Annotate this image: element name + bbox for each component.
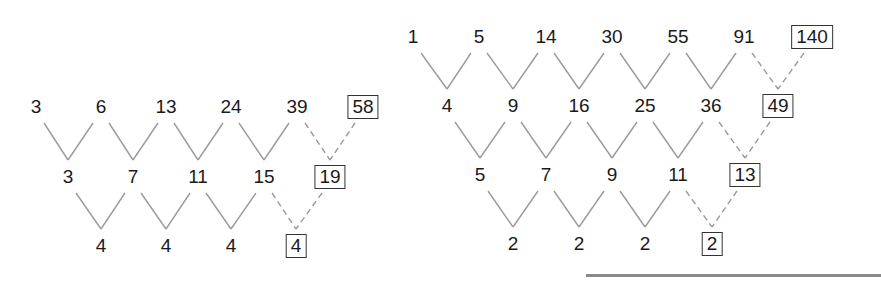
predicted-value-box: 58	[347, 95, 378, 119]
sequence-value: 6	[96, 96, 107, 118]
sequence-value: 39	[286, 96, 307, 118]
connector	[455, 122, 480, 158]
connector	[198, 123, 223, 160]
connector	[645, 53, 670, 89]
connector	[686, 53, 711, 89]
connector	[166, 193, 190, 229]
connector	[480, 122, 505, 158]
connector	[620, 191, 645, 227]
dashed-connector	[686, 191, 712, 227]
predicted-value-box: 49	[762, 94, 793, 118]
sequence-value: 5	[474, 26, 485, 48]
sequence-value: 91	[733, 26, 754, 48]
sequence-value: 36	[700, 95, 721, 117]
connector	[447, 53, 471, 89]
connector	[513, 53, 538, 89]
sequence-value: 25	[634, 95, 655, 117]
dashed-connector	[712, 191, 737, 227]
predicted-value-box: 140	[791, 25, 833, 49]
connector	[645, 191, 670, 227]
dashed-connector	[272, 193, 296, 229]
sequence-value: 4	[226, 235, 237, 257]
sequence-value: 24	[220, 96, 241, 118]
connector	[678, 122, 703, 158]
predicted-value-box: 19	[314, 165, 345, 189]
connector	[421, 53, 447, 89]
connector	[488, 191, 513, 227]
sequence-value: 4	[161, 235, 172, 257]
sequence-value: 9	[508, 95, 519, 117]
connector	[653, 122, 678, 158]
connector	[579, 191, 604, 227]
connector	[554, 191, 579, 227]
sequence-value: 9	[607, 164, 618, 186]
connector	[554, 53, 579, 89]
connector	[264, 123, 289, 160]
connector	[612, 122, 637, 158]
connector	[44, 123, 68, 160]
connector	[174, 123, 198, 160]
sequence-value: 11	[668, 164, 688, 186]
connector	[141, 193, 166, 229]
sequence-value: 3	[63, 166, 74, 188]
sequence-value: 13	[155, 96, 176, 118]
predicted-value-box: 2	[702, 232, 723, 256]
dashed-connector	[719, 122, 745, 158]
sequence-value: 11	[188, 166, 208, 188]
sequence-value: 7	[128, 166, 139, 188]
dashed-connector	[305, 123, 330, 160]
connector	[711, 53, 736, 89]
connector	[109, 123, 133, 160]
connector	[68, 123, 93, 160]
sequence-value: 30	[601, 26, 622, 48]
dashed-connector	[330, 123, 355, 160]
sequence-value: 2	[508, 233, 519, 255]
sequence-value: 14	[535, 26, 556, 48]
predicted-value-box: 4	[286, 234, 307, 258]
sequence-value: 2	[640, 233, 651, 255]
predicted-value-box: 13	[729, 163, 760, 187]
sequence-value: 15	[253, 166, 274, 188]
dashed-connector	[778, 53, 804, 89]
connector	[101, 193, 125, 229]
connector	[231, 193, 256, 229]
sequence-value: 2	[574, 233, 585, 255]
sequence-value: 1	[408, 26, 419, 48]
sequence-value: 4	[96, 235, 107, 257]
connector	[579, 53, 604, 89]
connector	[587, 122, 612, 158]
connector	[206, 193, 231, 229]
dashed-connector	[745, 122, 770, 158]
sequence-value: 5	[475, 164, 486, 186]
connector	[521, 122, 546, 158]
connector	[620, 53, 645, 89]
connector	[239, 123, 264, 160]
connector	[133, 123, 158, 160]
dashed-connector	[752, 53, 778, 89]
connector	[487, 53, 513, 89]
connector	[76, 193, 101, 229]
connector	[513, 191, 538, 227]
sequence-value: 55	[667, 26, 688, 48]
connector	[546, 122, 571, 158]
horizontal-rule	[586, 274, 881, 277]
sequence-value: 3	[31, 96, 42, 118]
sequence-value: 4	[442, 95, 453, 117]
sequence-value: 16	[568, 95, 589, 117]
difference-tables-figure: 3613243958371115194444151430559114049162…	[0, 0, 881, 288]
sequence-value: 7	[541, 164, 552, 186]
dashed-connector	[296, 193, 322, 229]
